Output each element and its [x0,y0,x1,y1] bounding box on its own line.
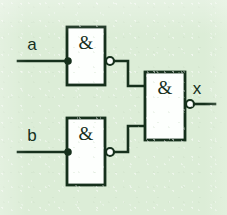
input-label-a: a [27,35,37,54]
output-label-x: x [193,79,202,98]
gate-output-inversion-bubble-icon [186,100,194,108]
logic-circuit-schematic: & & & a b x [0,0,227,215]
wire-gate-top-to-gate-output [114,61,146,86]
junction-dot-input-a-icon [64,57,72,65]
gate-bottom-inversion-bubble-icon [106,148,114,156]
gate-bottom-symbol: & [79,123,94,144]
gate-top-symbol: & [79,32,94,53]
circuit-diagram-canvas: & & & a b x [0,0,227,215]
input-label-b: b [27,126,36,145]
wire-gate-bottom-to-gate-output [114,126,146,152]
gate-output-symbol: & [158,77,173,98]
gate-top-inversion-bubble-icon [106,57,114,65]
junction-dot-input-b-icon [64,148,72,156]
